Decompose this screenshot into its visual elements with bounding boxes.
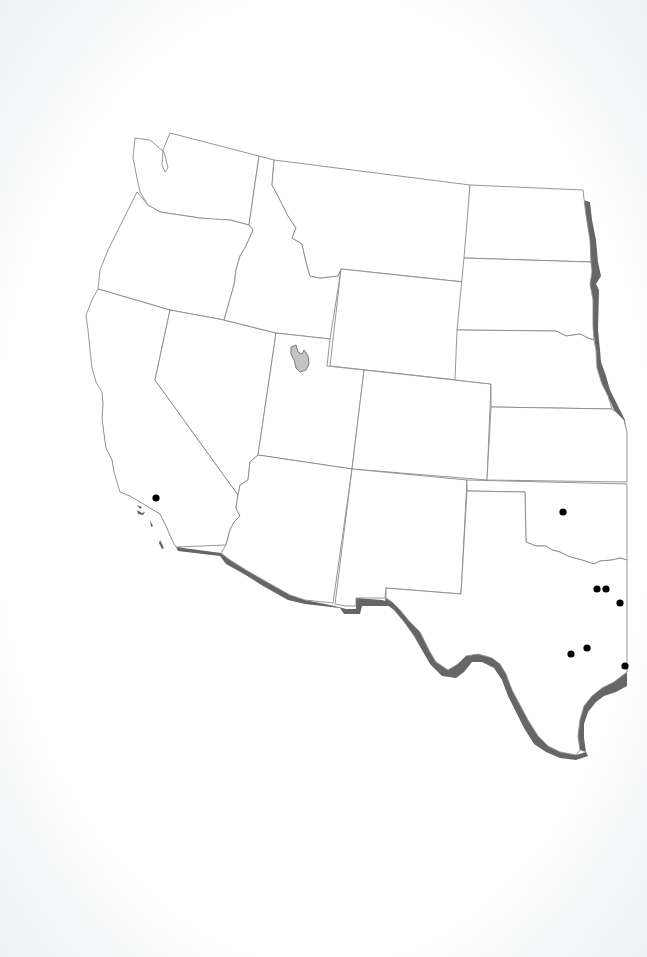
point-texas-4 xyxy=(567,650,574,657)
point-texas-5 xyxy=(583,644,590,651)
channel-island xyxy=(137,505,142,509)
point-california xyxy=(152,494,159,501)
point-texas-3 xyxy=(616,599,623,606)
point-texas-1 xyxy=(593,585,600,592)
point-texas-2 xyxy=(602,585,609,592)
point-texas-6 xyxy=(621,662,628,669)
state-colorado[interactable] xyxy=(352,370,491,480)
channel-island xyxy=(150,520,153,527)
state-wyoming[interactable] xyxy=(330,269,463,380)
state-north-dakota[interactable] xyxy=(464,185,591,262)
state-south-dakota[interactable] xyxy=(457,258,594,340)
channel-island xyxy=(159,540,164,549)
channel-island xyxy=(137,510,145,515)
state-new-mexico[interactable] xyxy=(335,469,467,606)
state-kansas[interactable] xyxy=(487,407,627,482)
western-us-map xyxy=(0,0,647,957)
point-oklahoma xyxy=(559,508,566,515)
